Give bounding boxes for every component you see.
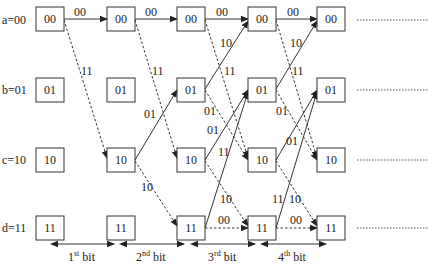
- state-label-c: c=10: [2, 153, 26, 167]
- branch-label: 10: [290, 36, 302, 50]
- svg-text:11: 11: [256, 221, 268, 235]
- transition-c-b: [135, 90, 177, 160]
- svg-text:01: 01: [185, 83, 197, 97]
- branch-label: 10: [141, 180, 153, 194]
- svg-text:10: 10: [115, 153, 127, 167]
- svg-text:01: 01: [256, 83, 268, 97]
- svg-text:00: 00: [256, 12, 268, 26]
- state-box-b: 01: [317, 78, 345, 102]
- state-box-d: 11: [317, 216, 345, 240]
- branch-labels: 00 11 00 11 01 10 00 10 11 01 01 11 10 0…: [74, 5, 304, 227]
- branch-label: 11: [292, 64, 304, 78]
- state-box-d: 11: [107, 216, 135, 240]
- branch-label: 01: [207, 123, 219, 137]
- state-box-a: 00: [177, 7, 205, 31]
- branch-label: 01: [144, 107, 156, 121]
- state-box-d: 11: [36, 216, 64, 240]
- svg-text:11: 11: [325, 221, 337, 235]
- branch-label: 01: [286, 134, 298, 148]
- branch-label: 11: [224, 64, 236, 78]
- state-box-b: 01: [177, 78, 205, 102]
- svg-text:01: 01: [325, 83, 337, 97]
- svg-text:01: 01: [44, 83, 56, 97]
- svg-text:10: 10: [256, 153, 268, 167]
- state-box-a: 00: [248, 7, 276, 31]
- state-label-b: b=01: [2, 83, 27, 97]
- svg-text:00: 00: [44, 12, 56, 26]
- svg-text:00: 00: [185, 12, 197, 26]
- branch-label: 00: [290, 213, 302, 227]
- state-box-a: 00: [317, 7, 345, 31]
- svg-text:10: 10: [185, 153, 197, 167]
- branch-label: 01: [204, 104, 216, 118]
- state-box-a: 00: [36, 7, 64, 31]
- bit-intervals: 1st bit 2nd bit 3rd bit 4th bit: [57, 244, 326, 264]
- svg-text:10: 10: [325, 153, 337, 167]
- branch-label: 11: [218, 145, 230, 159]
- transition-a-c: [135, 20, 177, 158]
- svg-text:11: 11: [115, 221, 127, 235]
- branch-label: 00: [216, 5, 228, 19]
- state-labels: a=00 b=01 c=10 d=11: [2, 13, 27, 235]
- transition-a-c: [64, 20, 107, 158]
- branch-label: 10: [220, 36, 232, 50]
- branch-label: 01: [276, 104, 288, 118]
- bit-interval-label: 1st bit: [68, 249, 96, 264]
- state-box-c: 10: [36, 148, 64, 172]
- state-box-b: 01: [107, 78, 135, 102]
- state-label-d: d=11: [2, 221, 26, 235]
- state-box-c: 10: [177, 148, 205, 172]
- branch-label: 11: [152, 64, 164, 78]
- state-box-c: 10: [107, 148, 135, 172]
- state-box-d: 11: [248, 216, 276, 240]
- branch-label: 11: [81, 64, 93, 78]
- trellis-diagram: a=00 b=01 c=10 d=11 00: [0, 0, 428, 266]
- branch-label: 00: [74, 5, 86, 19]
- bit-interval-label: 3rd bit: [208, 249, 237, 264]
- state-box-b: 01: [36, 78, 64, 102]
- state-box-a: 00: [107, 7, 135, 31]
- continuation-lines: [357, 20, 428, 228]
- state-box-c: 10: [317, 148, 345, 172]
- bit-interval-label: 2nd bit: [136, 249, 166, 264]
- branch-label: 00: [287, 5, 299, 19]
- svg-text:00: 00: [115, 12, 127, 26]
- svg-text:11: 11: [44, 221, 56, 235]
- branch-label: 00: [218, 213, 230, 227]
- bit-interval-label: 4th bit: [278, 249, 307, 264]
- state-label-a: a=00: [2, 13, 26, 27]
- branch-label: 11: [272, 192, 284, 206]
- state-box-c: 10: [248, 148, 276, 172]
- state-box-b: 01: [248, 78, 276, 102]
- svg-text:10: 10: [44, 153, 56, 167]
- svg-text:01: 01: [115, 83, 127, 97]
- transition-b-a: [276, 21, 317, 89]
- svg-text:11: 11: [185, 221, 197, 235]
- svg-text:00: 00: [325, 12, 337, 26]
- branch-label: 00: [145, 5, 157, 19]
- branch-label: 10: [220, 192, 232, 206]
- branch-label: 10: [289, 192, 301, 206]
- state-box-d: 11: [177, 216, 205, 240]
- transition-b-a: [205, 21, 248, 89]
